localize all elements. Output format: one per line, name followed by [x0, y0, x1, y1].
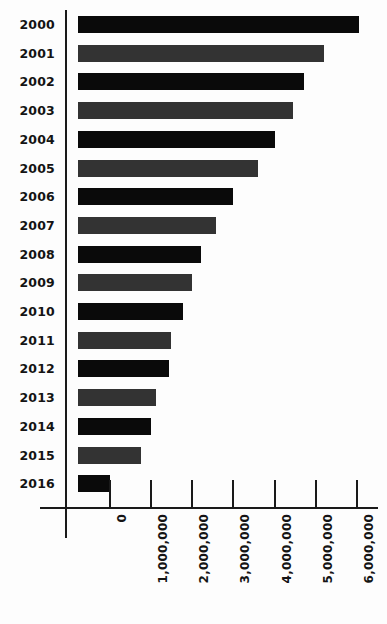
category-label-2006: 2006 — [0, 191, 55, 203]
x-tick-6 — [356, 480, 358, 507]
bar-chart: 2000200120022003200420052006200720082009… — [0, 0, 387, 624]
bar-2014 — [78, 418, 151, 435]
bar-2012 — [78, 360, 169, 377]
x-tick-4 — [274, 480, 276, 507]
x-tick-label-1: 1,000,000 — [156, 514, 170, 583]
x-tick-label-6: 6,000,000 — [362, 514, 376, 583]
x-tick-label-5: 5,000,000 — [321, 514, 335, 583]
category-label-2005: 2005 — [0, 163, 55, 175]
category-label-2012: 2012 — [0, 363, 55, 375]
bar-2011 — [78, 332, 171, 349]
x-tick-label-2: 2,000,000 — [197, 514, 211, 583]
bar-2016 — [78, 475, 110, 492]
category-label-2009: 2009 — [0, 277, 55, 289]
category-label-2002: 2002 — [0, 76, 55, 88]
x-tick-5 — [315, 480, 317, 507]
x-tick-label-0: 0 — [115, 514, 129, 523]
bar-2015 — [78, 447, 141, 464]
category-label-2001: 2001 — [0, 48, 55, 60]
x-tick-label-3: 3,000,000 — [238, 514, 252, 583]
bar-2009 — [78, 274, 192, 291]
x-axis-line — [40, 507, 378, 509]
bar-2001 — [78, 45, 324, 62]
category-label-2015: 2015 — [0, 450, 55, 462]
category-label-2004: 2004 — [0, 134, 55, 146]
bar-2006 — [78, 188, 233, 205]
bar-2008 — [78, 246, 201, 263]
x-tick-2 — [191, 480, 193, 507]
category-label-2010: 2010 — [0, 306, 55, 318]
bar-2007 — [78, 217, 216, 234]
category-label-2016: 2016 — [0, 478, 55, 490]
bar-2003 — [78, 102, 293, 119]
bar-2000 — [78, 16, 359, 33]
y-axis-line — [65, 10, 67, 538]
bar-2005 — [78, 160, 258, 177]
x-tick-0 — [109, 480, 111, 507]
plot-area — [0, 0, 387, 510]
bar-2004 — [78, 131, 275, 148]
x-tick-3 — [232, 480, 234, 507]
category-label-2014: 2014 — [0, 421, 55, 433]
category-label-2008: 2008 — [0, 249, 55, 261]
bar-2013 — [78, 389, 156, 406]
bar-2002 — [78, 73, 304, 90]
category-label-2000: 2000 — [0, 19, 55, 31]
bar-2010 — [78, 303, 183, 320]
category-label-2003: 2003 — [0, 105, 55, 117]
category-label-2013: 2013 — [0, 392, 55, 404]
x-tick-1 — [150, 480, 152, 507]
x-tick-label-4: 4,000,000 — [280, 514, 294, 583]
category-axis-labels: 2000200120022003200420052006200720082009… — [0, 0, 58, 470]
category-label-2007: 2007 — [0, 220, 55, 232]
category-label-2011: 2011 — [0, 335, 55, 347]
